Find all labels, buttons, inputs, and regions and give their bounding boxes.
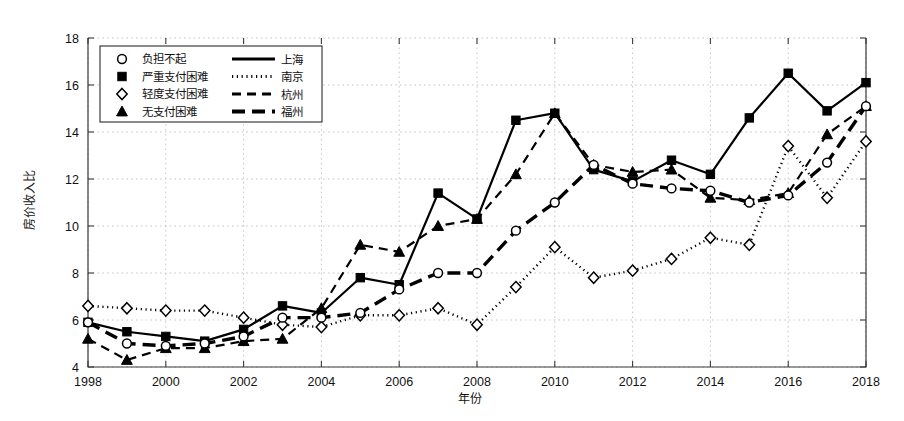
data-point-福州 [667, 184, 676, 193]
data-point-福州 [512, 226, 521, 235]
chart-legend: 负担不起上海严重支付困难南京轻度支付困难杭州无支付困难福州 [100, 46, 322, 122]
y-axis-label: 房价收入比 [22, 170, 37, 230]
data-point-上海 [278, 302, 286, 310]
house-price-to-income-ratio-chart: 4681012141618 19982000200220042006200820… [0, 0, 904, 421]
legend-series-label: 福州 [281, 105, 303, 118]
legend-marker-label: 严重支付困难 [142, 70, 208, 83]
data-point-上海 [356, 274, 364, 282]
x-tick-label: 2008 [463, 375, 491, 389]
data-point-上海 [706, 170, 714, 178]
data-point-上海 [862, 78, 870, 86]
data-point-上海 [784, 69, 792, 77]
data-point-福州 [473, 269, 482, 278]
legend-series-label: 上海 [281, 53, 304, 66]
legend-series-label: 杭州 [281, 88, 303, 101]
data-point-福州 [317, 313, 326, 322]
data-point-福州 [550, 198, 559, 207]
x-tick-label: 2012 [619, 375, 647, 389]
legend-marker-square [118, 72, 126, 80]
data-point-福州 [161, 341, 170, 350]
data-point-上海 [512, 116, 520, 124]
x-axis-label: 年份 [458, 392, 482, 406]
x-tick-label: 2014 [696, 375, 724, 389]
data-point-福州 [84, 318, 93, 327]
x-tick-label: 2016 [774, 375, 802, 389]
data-point-福州 [123, 339, 132, 348]
y-tick-label: 18 [65, 32, 79, 46]
data-point-福州 [278, 313, 287, 322]
y-tick-label: 8 [72, 267, 79, 281]
y-tick-label: 10 [65, 220, 79, 234]
x-tick-label: 2002 [230, 375, 258, 389]
x-tick-label: 2006 [385, 375, 413, 389]
data-point-福州 [356, 309, 365, 318]
data-point-上海 [434, 189, 442, 197]
data-point-上海 [162, 332, 170, 340]
data-point-福州 [395, 285, 404, 294]
legend-marker-circle [118, 55, 127, 64]
y-tick-label: 4 [72, 361, 79, 375]
data-point-上海 [823, 107, 831, 115]
data-point-福州 [200, 339, 209, 348]
data-point-上海 [123, 328, 131, 336]
y-tick-label: 16 [65, 79, 79, 93]
legend-series-label: 南京 [281, 70, 303, 83]
y-tick-label: 14 [65, 126, 79, 140]
data-point-福州 [745, 198, 754, 207]
data-point-福州 [862, 102, 871, 111]
x-tick-label: 2010 [541, 375, 569, 389]
data-point-上海 [667, 156, 675, 164]
y-tick-label: 6 [72, 314, 79, 328]
legend-marker-label: 无支付困难 [142, 106, 197, 118]
data-point-福州 [589, 161, 598, 170]
legend-marker-label: 轻度支付困难 [142, 87, 208, 100]
x-tick-label: 2004 [307, 375, 335, 389]
data-point-上海 [745, 114, 753, 122]
data-point-福州 [823, 158, 832, 167]
data-point-福州 [706, 186, 715, 195]
data-point-福州 [784, 191, 793, 200]
data-point-福州 [434, 269, 443, 278]
y-tick-label: 12 [65, 173, 79, 187]
x-tick-label: 2000 [152, 375, 180, 389]
x-tick-label: 2018 [852, 375, 880, 389]
data-point-福州 [239, 332, 248, 341]
x-tick-label: 1998 [74, 375, 102, 389]
legend-marker-label: 负担不起 [142, 52, 187, 65]
data-point-福州 [628, 179, 637, 188]
